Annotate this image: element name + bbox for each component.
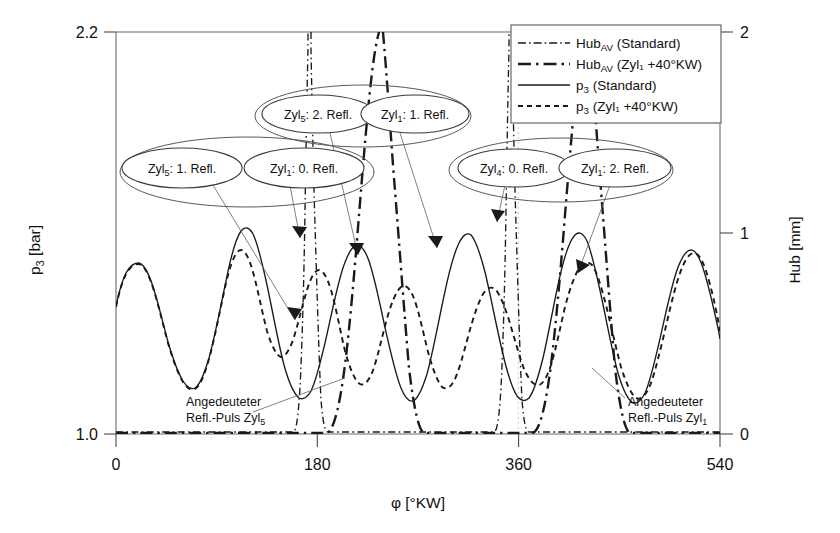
note-right-line2-main: Refl.-Puls Zyl	[628, 411, 702, 425]
xtick-360: 360	[505, 456, 532, 473]
callout6-main: Zyl	[581, 162, 598, 176]
legend1-main: Hub	[576, 36, 601, 51]
note-right-line2-sub: 1	[702, 417, 707, 427]
right-tick-mid: 1	[740, 225, 749, 242]
chart-canvas: 2.2 1.0 p3 [bar] 2 1 0 Hub [mm] 0 180 36…	[0, 0, 840, 533]
callout1-main: Zyl	[148, 162, 165, 176]
legend3-main: p	[576, 78, 584, 93]
left-axis-title-tail: [bar]	[26, 225, 43, 260]
callout3-tail: : 2. Refl.	[306, 108, 353, 122]
svg-text:Refl.-Puls Zyl1: Refl.-Puls Zyl1	[628, 411, 707, 427]
callout5-main: Zyl	[480, 162, 497, 176]
svg-text:Zyl1: 1. Refl.: Zyl1: 1. Refl.	[381, 108, 449, 124]
legend1-sub: AV	[601, 42, 614, 53]
callout-zyl1-2refl: Zyl1: 2. Refl.	[559, 149, 671, 187]
legend: HubAV (Standard) HubAV (Zyl₁ +40°KW) p3 …	[511, 25, 721, 123]
callout2-main: Zyl	[270, 162, 287, 176]
svg-text:p3 (Zyl₁ +40°KW): p3 (Zyl₁ +40°KW)	[576, 99, 678, 116]
legend3-tail: (Standard)	[589, 78, 657, 93]
x-axis-title: φ [°KW]	[391, 494, 445, 511]
chart-figure: 2.2 1.0 p3 [bar] 2 1 0 Hub [mm] 0 180 36…	[0, 0, 840, 533]
svg-text:Zyl4: 0. Refl.: Zyl4: 0. Refl.	[480, 162, 548, 178]
right-axis-title-text: Hub [mm]	[786, 216, 803, 283]
left-axis-title-main: p	[26, 266, 43, 275]
callout5-tail: : 0. Refl.	[502, 162, 549, 176]
svg-text:Zyl5: 2. Refl.: Zyl5: 2. Refl.	[284, 108, 352, 124]
svg-text:Zyl5: 1. Refl.: Zyl5: 1. Refl.	[148, 162, 216, 178]
svg-text:HubAV (Zyl₁ +40°KW): HubAV (Zyl₁ +40°KW)	[576, 57, 702, 74]
xtick-180: 180	[304, 456, 331, 473]
note-left-line2-sub: 5	[260, 417, 265, 427]
callout2-tail: : 0. Refl.	[292, 162, 339, 176]
note-right-line1: Angedeuteter	[628, 395, 703, 409]
legend2-sub: AV	[601, 63, 614, 74]
legend4-tail: (Zyl₁ +40°KW)	[589, 99, 678, 114]
right-tick-top: 2	[740, 24, 749, 41]
legend4-main: p	[576, 99, 584, 114]
callout1-tail: : 1. Refl.	[170, 162, 217, 176]
note-left-line2-main: Refl.-Puls Zyl	[186, 411, 260, 425]
xtick-0: 0	[112, 456, 121, 473]
callout4-main: Zyl	[381, 108, 398, 122]
left-tick-top: 2.2	[76, 24, 98, 41]
callout6-tail: : 2. Refl.	[603, 162, 650, 176]
left-tick-bottom: 1.0	[76, 426, 98, 443]
callout4-tail: : 1. Refl.	[403, 108, 450, 122]
xtick-540: 540	[707, 456, 734, 473]
note-left-line1: Angedeuteter	[186, 395, 261, 409]
callout-zyl1-1refl: Zyl1: 1. Refl.	[361, 95, 469, 133]
svg-text:HubAV (Standard): HubAV (Standard)	[576, 36, 681, 53]
right-tick-bottom: 0	[740, 426, 749, 443]
callout-zyl1-0refl: Zyl1: 0. Refl.	[244, 148, 364, 188]
svg-text:Zyl1: 2. Refl.: Zyl1: 2. Refl.	[581, 162, 649, 178]
right-axis-title: Hub [mm]	[786, 216, 803, 283]
svg-text:Zyl1: 0. Refl.: Zyl1: 0. Refl.	[270, 162, 338, 178]
legend2-tail: (Zyl₁ +40°KW)	[613, 57, 702, 72]
svg-text:Refl.-Puls Zyl5: Refl.-Puls Zyl5	[186, 411, 265, 427]
svg-text:p3 (Standard): p3 (Standard)	[576, 78, 656, 95]
legend1-tail: (Standard)	[613, 36, 681, 51]
legend2-main: Hub	[576, 57, 601, 72]
callout3-main: Zyl	[284, 108, 301, 122]
